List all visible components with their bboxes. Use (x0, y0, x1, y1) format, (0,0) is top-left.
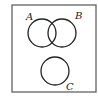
set-b-label: B (74, 10, 82, 21)
set-a-label: A (25, 11, 33, 22)
venn-diagram: A B C (0, 0, 98, 98)
set-c-label: C (66, 81, 74, 92)
set-b-circle (48, 19, 76, 47)
set-c-circle (41, 57, 69, 85)
universal-set-frame (12, 5, 96, 92)
